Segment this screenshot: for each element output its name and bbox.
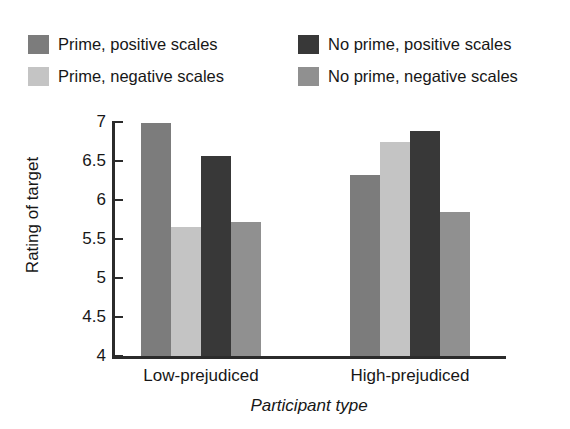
- y-axis-line: [112, 121, 115, 359]
- y-axis-title: Rating of target: [23, 135, 43, 295]
- plot-area: 44.555.566.57 Low-prejudicedHigh-prejudi…: [0, 0, 570, 429]
- y-tick-label-6.5: 6.5: [62, 152, 106, 169]
- y-tick-7: [112, 121, 123, 123]
- bar-chart-figure: Prime, positive scales Prime, negative s…: [0, 0, 570, 429]
- bar-2-1: [350, 175, 380, 356]
- y-tick-label-7: 7: [62, 113, 106, 130]
- y-tick-label-6: 6: [62, 191, 106, 208]
- bar-1-4: [231, 222, 261, 356]
- y-tick-label-4: 4: [62, 347, 106, 364]
- y-tick-label-4.5: 4.5: [62, 308, 106, 325]
- y-tick-6.5: [112, 160, 123, 162]
- x-axis-line: [112, 356, 506, 359]
- y-tick-5.5: [112, 238, 123, 240]
- bar-2-3: [410, 131, 440, 356]
- bar-2-2: [380, 142, 410, 357]
- y-tick-5: [112, 277, 123, 279]
- bar-1-2: [171, 227, 201, 356]
- bar-2-4: [440, 212, 470, 356]
- y-tick-4.5: [112, 316, 123, 318]
- bars-layer: [0, 0, 570, 357]
- y-tick-4: [112, 355, 123, 357]
- y-tick-label-5: 5: [62, 269, 106, 286]
- y-tick-label-5.5: 5.5: [62, 230, 106, 247]
- bar-1-3: [201, 156, 231, 356]
- x-axis-title: Participant type: [112, 396, 506, 416]
- bar-1-1: [141, 123, 171, 356]
- x-tick-label-1: Low-prejudiced: [111, 366, 291, 386]
- x-tick-label-2: High-prejudiced: [320, 366, 500, 386]
- y-tick-6: [112, 199, 123, 201]
